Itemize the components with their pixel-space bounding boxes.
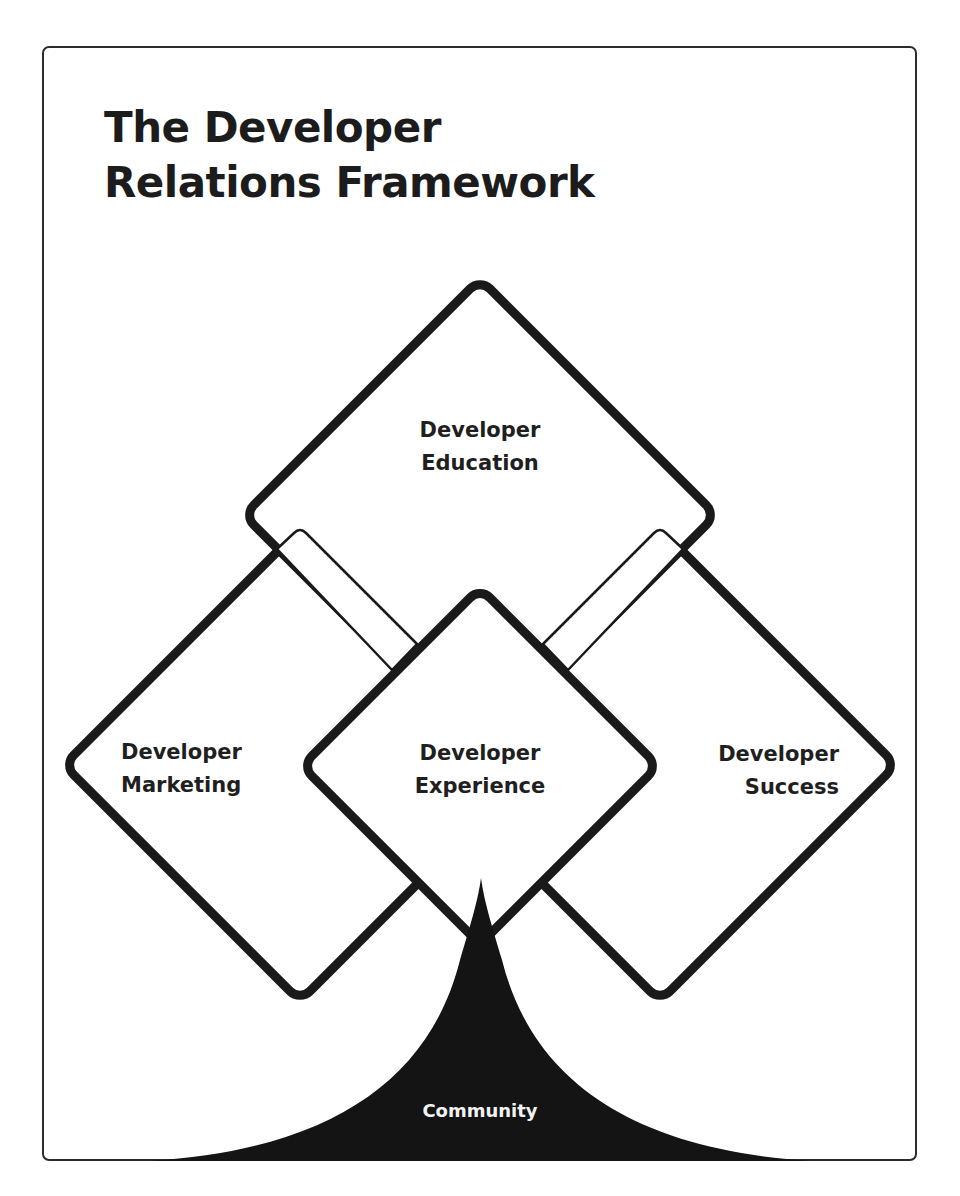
node-success: Developer Success (640, 738, 839, 804)
community-label: Community (380, 1100, 580, 1121)
node-education: Developer Education (380, 414, 580, 480)
node-experience: Developer Experience (380, 737, 580, 803)
node-marketing: Developer Marketing (121, 736, 301, 802)
framework-diagram (0, 0, 960, 1196)
